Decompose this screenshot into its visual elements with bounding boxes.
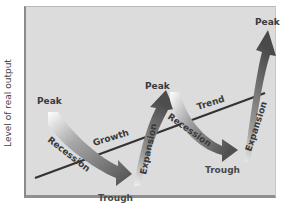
label-peak-1: Peak: [37, 96, 63, 106]
label-peak-2: Peak: [145, 81, 171, 91]
label-trough-2: Trough: [205, 165, 240, 175]
business-cycle-diagram: Peak Peak Peak Trough Trough Recession G…: [0, 0, 294, 215]
label-expansion-1: Expansion: [138, 123, 159, 176]
label-peak-3: Peak: [255, 17, 281, 27]
label-trough-1: Trough: [98, 193, 133, 203]
label-expansion-2: Expansion: [243, 100, 269, 152]
